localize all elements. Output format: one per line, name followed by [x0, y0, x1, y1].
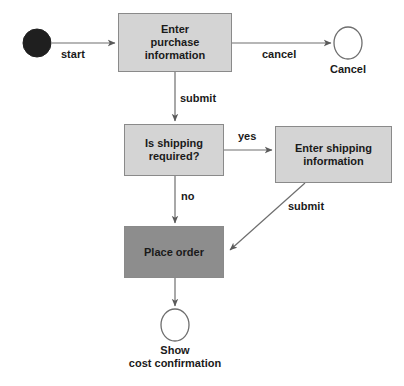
- initial-node: [23, 29, 51, 57]
- edge-label-start: start: [61, 48, 85, 60]
- edge-label-cancel: cancel: [262, 48, 296, 60]
- node-is-shipping-required[interactable]: Is shipping required?: [124, 124, 224, 176]
- edge-shipping-to-place-order: [230, 183, 305, 250]
- final-node-cancel: [334, 27, 362, 59]
- node-enter-shipping-information[interactable]: Enter shipping information: [275, 126, 392, 183]
- edge-label-no: no: [181, 190, 194, 202]
- node-enter-shipping-information-label: Enter shipping information: [295, 142, 372, 168]
- node-enter-purchase-information[interactable]: Enter purchase information: [118, 13, 232, 72]
- activity-diagram-canvas: Enter purchase information Is shipping r…: [0, 0, 404, 386]
- edge-label-yes: yes: [238, 130, 256, 142]
- final-node-show-cost-confirmation: [161, 309, 189, 341]
- node-place-order[interactable]: Place order: [124, 226, 224, 278]
- edge-label-submit-shipping: submit: [288, 200, 324, 212]
- node-place-order-label: Place order: [144, 246, 204, 259]
- node-enter-purchase-information-label: Enter purchase information: [145, 23, 206, 62]
- node-is-shipping-required-label: Is shipping required?: [145, 137, 203, 163]
- edge-label-submit-purchase: submit: [180, 92, 216, 104]
- final-node-show-cost-confirmation-label: Show cost confirmation: [105, 344, 245, 370]
- final-node-cancel-label: Cancel: [318, 63, 378, 76]
